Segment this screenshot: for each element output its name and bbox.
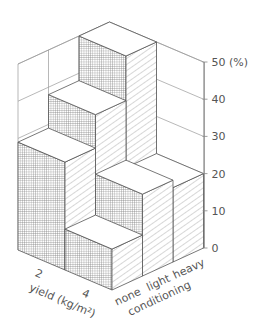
yield-tick-label: 4 [80, 286, 92, 301]
z-axis: 01020304050 (%) [203, 56, 249, 255]
z-tick-label: 40 [212, 93, 226, 106]
bar-chart-3d: 01020304050 (%) 24yield (kg/m²)nonelight… [0, 0, 260, 328]
z-tick-label: 50 (%) [212, 56, 249, 69]
bar-face-left [18, 142, 65, 270]
z-tick-label: 10 [212, 205, 226, 218]
z-tick-label: 0 [212, 242, 219, 255]
bar-face-right [143, 180, 174, 276]
bars [18, 22, 204, 290]
z-tick-label: 30 [212, 130, 226, 143]
yield-tick-label: 2 [33, 266, 45, 281]
bar-face-right [173, 174, 204, 262]
z-tick-label: 20 [212, 168, 226, 181]
